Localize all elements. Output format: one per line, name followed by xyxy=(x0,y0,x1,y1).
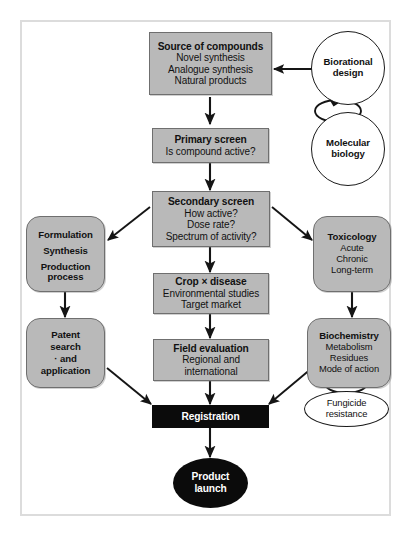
source-of-compounds-line-2: Analogue synthesis xyxy=(168,64,253,75)
toxicology-line-3: Long-term xyxy=(331,265,373,276)
source-of-compounds-line-1: Novel synthesis xyxy=(176,52,245,63)
node-fungicide-resistance[interactable]: Fungicide resistance xyxy=(304,391,389,427)
crop-disease-line-1: Environmental studies xyxy=(163,288,259,299)
patent-line-4: application xyxy=(41,366,91,377)
node-source-of-compounds[interactable]: Source of compounds Novel synthesis Anal… xyxy=(149,32,272,95)
patent-line-3: · and xyxy=(54,354,76,365)
field-evaluation-heading: Field evaluation xyxy=(173,343,248,355)
secondary-screen-line-3: Spectrum of activity? xyxy=(166,231,257,242)
diagram-canvas: Source of compounds Novel synthesis Anal… xyxy=(0,0,419,538)
node-formulation[interactable]: Formulation Synthesis Production process xyxy=(26,216,105,292)
patent-line-2: search xyxy=(50,342,80,353)
node-product-launch[interactable]: Product launch xyxy=(173,458,248,508)
fungicide-resistance-line-2: resistance xyxy=(326,409,368,420)
secondary-screen-line-1: How active? xyxy=(184,208,237,219)
node-primary-screen[interactable]: Primary screen Is compound active? xyxy=(152,128,269,163)
product-launch-line-2: launch xyxy=(194,483,226,495)
secondary-screen-heading: Secondary screen xyxy=(168,196,254,208)
crop-disease-line-2: Target market xyxy=(181,299,241,310)
field-evaluation-line-2: international xyxy=(184,366,237,377)
formulation-line-4: process xyxy=(47,272,83,283)
primary-screen-heading: Primary screen xyxy=(174,134,246,146)
secondary-screen-line-2: Dose rate? xyxy=(187,219,235,230)
product-launch-line-1: Product xyxy=(192,471,230,483)
node-molecular-biology[interactable]: Molecular biology xyxy=(311,112,385,186)
node-crop-disease[interactable]: Crop × disease Environmental studies Tar… xyxy=(153,273,269,314)
molecular-biology-line-2: biology xyxy=(331,149,364,160)
node-biorational-design[interactable]: Biorational design xyxy=(311,31,385,105)
registration-heading: Registration xyxy=(181,411,239,423)
node-patent[interactable]: Patent search · and application xyxy=(26,318,105,388)
biorational-design-line-2: design xyxy=(333,68,363,79)
biochemistry-line-3: Mode of action xyxy=(319,364,379,375)
crop-disease-heading: Crop × disease xyxy=(175,276,246,288)
formulation-line-2: Synthesis xyxy=(43,246,87,257)
node-field-evaluation[interactable]: Field evaluation Regional and internatio… xyxy=(153,339,269,381)
primary-screen-line-1: Is compound active? xyxy=(166,146,256,157)
node-registration[interactable]: Registration xyxy=(152,405,269,428)
formulation-line-1: Formulation xyxy=(38,230,92,241)
patent-line-1: Patent xyxy=(51,330,80,341)
node-secondary-screen[interactable]: Secondary screen How active? Dose rate? … xyxy=(152,191,270,247)
source-of-compounds-line-3: Natural products xyxy=(175,75,247,86)
field-evaluation-line-1: Regional and xyxy=(182,354,240,365)
node-toxicology[interactable]: Toxicology Acute Chronic Long-term xyxy=(313,216,391,292)
node-biochemistry[interactable]: Biochemistry Metabolism Residues Mode of… xyxy=(307,318,391,388)
source-of-compounds-heading: Source of compounds xyxy=(158,41,264,53)
